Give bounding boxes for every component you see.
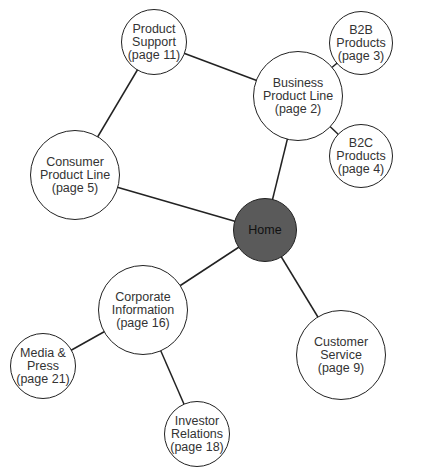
node-label-line: (page 5) <box>52 182 99 195</box>
node-label-line: Support <box>132 36 176 49</box>
node-b2c-products[interactable]: B2CProducts(page 4) <box>329 124 393 188</box>
node-label-line: Service <box>320 349 362 362</box>
node-label-line: (page 4) <box>338 163 385 176</box>
node-label-line: Customer <box>314 336 368 349</box>
node-label-line: Press <box>27 360 59 373</box>
node-label-line: (page 16) <box>116 317 170 330</box>
node-label-line: Relations <box>171 428 223 441</box>
node-label-line: Media & <box>20 347 66 360</box>
node-media-press[interactable]: Media &Press(page 21) <box>10 333 76 399</box>
node-label-line: B2C <box>349 137 373 150</box>
node-label-line: Home <box>248 224 281 237</box>
node-label-line: Consumer <box>46 156 104 169</box>
node-label-line: Investor <box>175 415 219 428</box>
node-label-line: (page 9) <box>318 362 365 375</box>
node-business-product-line[interactable]: BusinessProduct Line(page 2) <box>253 51 343 141</box>
node-label-line: (page 18) <box>170 441 224 454</box>
node-customer-service[interactable]: CustomerService(page 9) <box>296 310 386 400</box>
node-label-line: Product Line <box>263 90 333 103</box>
node-b2b-products[interactable]: B2BProducts(page 3) <box>329 11 393 75</box>
node-investor-relations[interactable]: InvestorRelations(page 18) <box>164 401 230 467</box>
node-label-line: Information <box>112 304 175 317</box>
node-consumer-product-line[interactable]: ConsumerProduct Line(page 5) <box>30 130 120 220</box>
node-label-line: Business <box>273 77 324 90</box>
node-label-line: B2B <box>349 24 373 37</box>
node-label-line: (page 21) <box>16 373 70 386</box>
node-label-line: Products <box>336 37 385 50</box>
node-label-line: (page 2) <box>275 103 322 116</box>
node-label-line: Product <box>132 23 175 36</box>
node-label-line: Products <box>336 150 385 163</box>
node-label-line: Product Line <box>40 169 110 182</box>
node-corporate-information[interactable]: CorporateInformation(page 16) <box>98 265 188 355</box>
node-label-line: (page 11) <box>128 49 181 62</box>
node-home[interactable]: Home <box>233 198 297 262</box>
node-product-support[interactable]: ProductSupport(page 11) <box>121 9 187 75</box>
node-label-line: (page 3) <box>338 50 385 63</box>
node-label-line: Corporate <box>115 291 171 304</box>
